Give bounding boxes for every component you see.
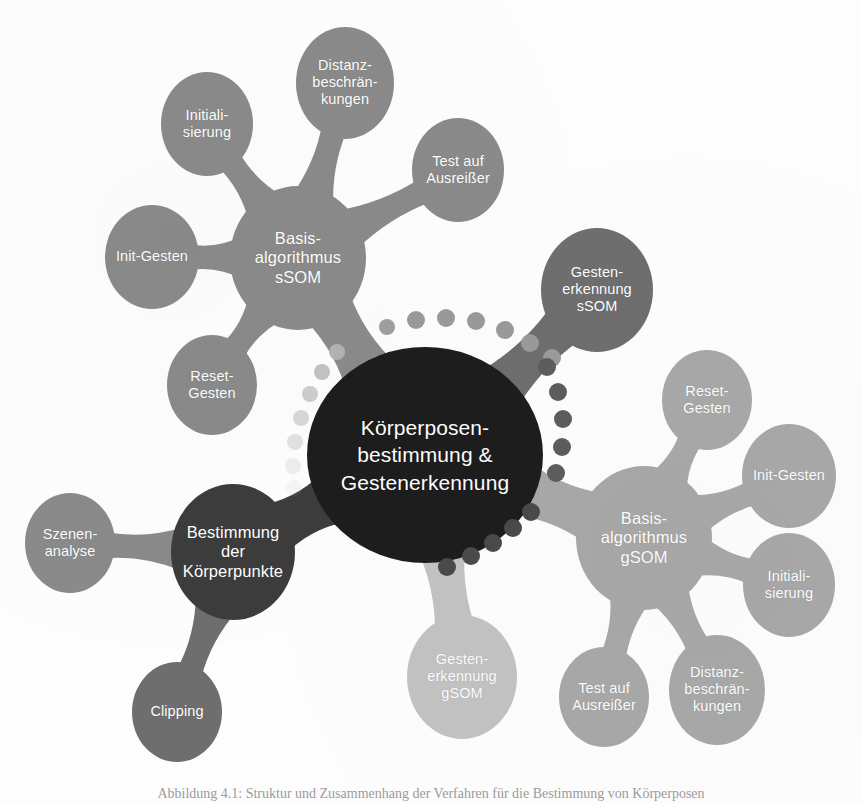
bubble-ssom-test-ausreisser [412,118,504,222]
figure-canvas: Initiali- sierungDistanz- beschrän- kung… [0,0,862,803]
dot-trail-center-to-gesten-ssom-5 [521,334,539,352]
dot-trail-center-to-gsom-1 [504,519,522,537]
bubble-szenenanalyse [25,493,115,593]
bubble-gsom-reset-gesten [662,350,752,450]
dot-trail-gesten-ssom-down-0 [538,358,556,376]
dot-trail-center-to-gesten-ssom-4 [496,321,514,339]
dot-trail-ssom-to-center-0 [329,344,345,360]
bubble-gestenerkennung-gsom [407,615,517,739]
bubble-gsom-initialisierung [743,533,835,637]
mindmap-diagram [0,0,862,803]
dot-trail-ssom-to-center-2 [302,386,318,402]
dot-trail-center-to-gsom-4 [438,558,456,576]
dot-trail-gesten-ssom-down-3 [553,438,571,456]
dot-trail-center-to-gsom-0 [522,503,540,521]
bubble-ssom-reset-gesten [167,335,257,435]
bubble-basis-algorithmus-gsom [576,466,712,610]
figure-caption: Abbildung 4.1: Struktur und Zusammenhang… [0,786,862,803]
dot-trail-gesten-ssom-down-4 [547,464,565,482]
dot-trail-center-to-gesten-ssom-1 [407,311,425,329]
dot-trail-center-to-gesten-ssom-2 [437,309,455,327]
dot-trail-gesten-ssom-down-1 [549,383,567,401]
bubble-clipping [132,662,222,762]
node-layer [25,27,836,762]
bubble-bestimmung-koerperpunkte [171,484,295,620]
dot-trail-gesten-ssom-down-2 [554,410,572,428]
bubble-gsom-test-ausreisser [559,647,649,747]
bubble-ssom-init-gesten [105,205,199,309]
dot-trail-center-to-gsom-2 [484,534,502,552]
bubble-gsom-distanz [669,635,765,745]
dot-trail-ssom-to-center-3 [293,410,309,426]
bubble-gsom-init-gesten [742,424,836,528]
bubble-ssom-initialisierung [161,72,253,176]
dot-trail-center-to-gesten-ssom-3 [467,312,485,330]
bubble-gestenerkennung-ssom [541,228,653,352]
dot-trail-ssom-to-center-6 [286,480,302,496]
dot-trail-ssom-to-center-1 [314,364,330,380]
dot-trail-center-to-gesten-ssom-0 [379,319,395,335]
dot-trail-ssom-to-center-5 [285,458,301,474]
bubble-ssom-distanz [296,27,394,139]
dot-trail-center-to-gsom-3 [462,547,480,565]
bubble-basis-algorithmus-ssom [230,186,366,330]
dot-trail-ssom-to-center-4 [287,434,303,450]
